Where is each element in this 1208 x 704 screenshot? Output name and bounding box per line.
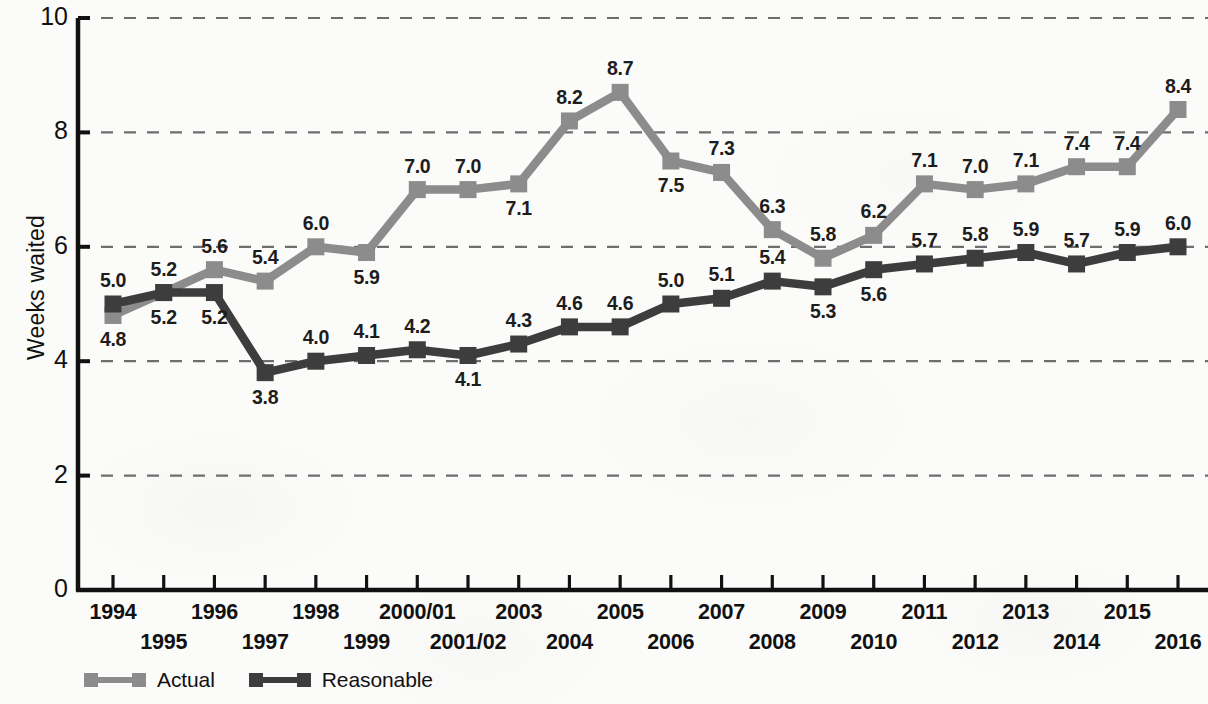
x-axis-tick-2014: 2014 [1053, 630, 1100, 655]
data-point-marker-reasonable-19[interactable] [1068, 255, 1085, 272]
data-label-actual-3: 5.4 [252, 246, 278, 269]
data-point-marker-reasonable-15[interactable] [865, 261, 882, 278]
legend-marker-icon [249, 673, 263, 687]
y-axis-tick-8: 8 [16, 116, 68, 145]
y-axis-tick-6: 6 [16, 231, 68, 260]
x-axis-tick-1998: 1998 [292, 600, 339, 625]
data-point-marker-actual-12[interactable] [713, 164, 730, 181]
data-label-reasonable-9: 4.6 [556, 292, 582, 315]
data-point-marker-reasonable-20[interactable] [1119, 244, 1136, 261]
data-point-marker-reasonable-6[interactable] [409, 341, 426, 358]
data-label-actual-9: 8.2 [556, 86, 582, 109]
x-axis-tick-1996: 1996 [191, 600, 238, 625]
data-label-reasonable-0: 5.0 [100, 269, 126, 292]
data-point-marker-reasonable-13[interactable] [764, 273, 781, 290]
x-axis-tick-2016: 2016 [1154, 630, 1201, 655]
data-point-marker-actual-4[interactable] [307, 238, 324, 255]
data-label-reasonable-1: 5.2 [151, 306, 177, 329]
data-point-marker-actual-11[interactable] [662, 153, 679, 170]
x-axis-tick-2012: 2012 [952, 630, 999, 655]
data-label-actual-6: 7.0 [404, 155, 430, 178]
data-label-actual-19: 7.4 [1063, 132, 1089, 155]
x-axis-tick-2013: 2013 [1002, 600, 1049, 625]
data-point-marker-actual-8[interactable] [510, 175, 527, 192]
y-axis-tick-10: 10 [16, 2, 68, 31]
x-axis-tick-2005: 2005 [597, 600, 644, 625]
legend-item-reasonable[interactable]: Reasonable [249, 668, 433, 692]
data-label-actual-2: 5.6 [201, 235, 227, 258]
data-label-reasonable-4: 4.0 [303, 326, 329, 349]
y-axis-tick-2: 2 [16, 460, 68, 489]
chart-legend: ActualReasonable [84, 668, 433, 692]
data-point-marker-reasonable-11[interactable] [662, 296, 679, 313]
data-label-reasonable-21: 6.0 [1165, 212, 1191, 235]
data-point-marker-reasonable-3[interactable] [257, 364, 274, 381]
legend-marker-icon [84, 673, 98, 687]
data-point-marker-reasonable-8[interactable] [510, 336, 527, 353]
data-label-actual-21: 8.4 [1165, 75, 1191, 98]
data-point-marker-reasonable-18[interactable] [1017, 244, 1034, 261]
data-point-marker-actual-6[interactable] [409, 181, 426, 198]
data-point-marker-reasonable-12[interactable] [713, 290, 730, 307]
data-point-marker-actual-19[interactable] [1068, 158, 1085, 175]
legend-line-icon [98, 677, 132, 683]
data-label-actual-4: 6.0 [303, 212, 329, 235]
data-point-marker-actual-18[interactable] [1017, 175, 1034, 192]
data-point-marker-actual-7[interactable] [460, 181, 477, 198]
x-axis-tick-2009: 2009 [799, 600, 846, 625]
data-point-marker-reasonable-4[interactable] [307, 353, 324, 370]
data-point-marker-reasonable-16[interactable] [916, 255, 933, 272]
data-label-reasonable-17: 5.8 [962, 223, 988, 246]
data-label-actual-7: 7.0 [455, 155, 481, 178]
chart-plot-area [0, 0, 1208, 704]
data-point-marker-reasonable-1[interactable] [155, 284, 172, 301]
data-label-reasonable-14: 5.3 [810, 300, 836, 323]
data-point-marker-reasonable-17[interactable] [967, 250, 984, 267]
y-axis-tick-0: 0 [16, 574, 68, 603]
data-point-marker-actual-13[interactable] [764, 221, 781, 238]
data-label-actual-8: 7.1 [506, 197, 532, 220]
legend-item-actual[interactable]: Actual [84, 668, 215, 692]
x-axis-tick-2000-01: 2000/01 [379, 600, 455, 625]
data-point-marker-actual-15[interactable] [865, 227, 882, 244]
data-point-marker-actual-5[interactable] [358, 244, 375, 261]
data-point-marker-actual-10[interactable] [612, 84, 629, 101]
data-label-actual-18: 7.1 [1013, 149, 1039, 172]
data-label-reasonable-15: 5.6 [861, 283, 887, 306]
data-label-reasonable-19: 5.7 [1063, 229, 1089, 252]
data-label-reasonable-2: 5.2 [201, 306, 227, 329]
data-label-actual-16: 7.1 [911, 149, 937, 172]
data-label-actual-10: 8.7 [607, 57, 633, 80]
data-point-marker-reasonable-9[interactable] [561, 318, 578, 335]
data-point-marker-actual-2[interactable] [206, 261, 223, 278]
data-label-reasonable-7: 4.1 [455, 368, 481, 391]
y-axis-tick-4: 4 [16, 345, 68, 374]
data-point-marker-reasonable-0[interactable] [105, 296, 122, 313]
data-point-marker-actual-9[interactable] [561, 112, 578, 129]
legend-line-icon [263, 677, 297, 683]
data-point-marker-actual-20[interactable] [1119, 158, 1136, 175]
data-point-marker-actual-17[interactable] [967, 181, 984, 198]
data-label-actual-17: 7.0 [962, 155, 988, 178]
data-point-marker-actual-21[interactable] [1170, 101, 1187, 118]
data-point-marker-reasonable-7[interactable] [460, 347, 477, 364]
data-point-marker-reasonable-10[interactable] [612, 318, 629, 335]
data-point-marker-reasonable-21[interactable] [1170, 238, 1187, 255]
data-label-reasonable-13: 5.4 [759, 246, 785, 269]
data-point-marker-reasonable-2[interactable] [206, 284, 223, 301]
data-point-marker-reasonable-14[interactable] [815, 278, 832, 295]
data-point-marker-actual-3[interactable] [257, 273, 274, 290]
data-label-actual-20: 7.4 [1114, 132, 1140, 155]
data-point-marker-actual-16[interactable] [916, 175, 933, 192]
data-label-actual-12: 7.3 [708, 137, 734, 160]
data-point-marker-actual-14[interactable] [815, 250, 832, 267]
data-point-marker-reasonable-5[interactable] [358, 347, 375, 364]
data-label-reasonable-10: 4.6 [607, 292, 633, 315]
x-axis-tick-2008: 2008 [749, 630, 796, 655]
x-axis-tick-2004: 2004 [546, 630, 593, 655]
data-label-reasonable-12: 5.1 [708, 263, 734, 286]
data-label-reasonable-8: 4.3 [506, 309, 532, 332]
data-label-actual-15: 6.2 [861, 200, 887, 223]
legend-marker-icon [132, 673, 146, 687]
data-label-reasonable-16: 5.7 [911, 229, 937, 252]
